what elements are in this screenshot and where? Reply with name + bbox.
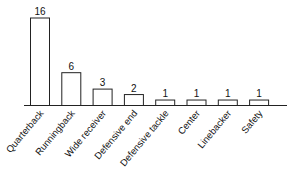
category-labels-group: QuarterbackRunningbackWide receiverDefen…	[3, 108, 264, 169]
value-label: 2	[131, 83, 137, 94]
category-label: Safety	[239, 108, 265, 136]
value-label: 6	[69, 61, 75, 72]
value-label: 1	[162, 88, 168, 99]
bar-chart: 166321111 QuarterbackRunningbackWide rec…	[0, 0, 297, 174]
bar-safety	[250, 100, 269, 105]
bar-quarterback	[31, 18, 50, 106]
category-label: Center	[175, 108, 202, 137]
value-label: 1	[225, 88, 231, 99]
bar-runningback	[62, 73, 81, 106]
value-label: 1	[194, 88, 200, 99]
bar-center	[187, 100, 206, 105]
value-label: 1	[256, 88, 262, 99]
bars-group	[31, 18, 269, 106]
bar-defensive-end	[124, 95, 143, 106]
bar-linebacker	[218, 100, 237, 105]
value-label: 16	[34, 6, 46, 17]
bar-wide-receiver	[93, 89, 112, 105]
value-label: 3	[100, 77, 106, 88]
bar-defensive-tackle	[156, 100, 175, 105]
